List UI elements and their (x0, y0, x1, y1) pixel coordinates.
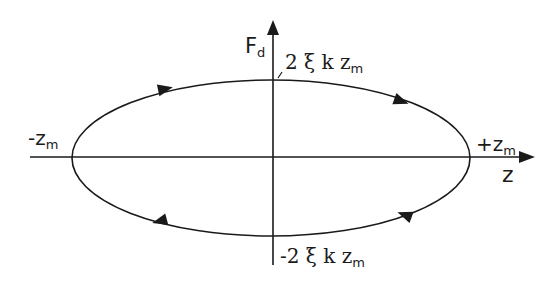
top-amplitude-main: 2 ξ k z (285, 50, 350, 74)
fd-axis-label: Fd (245, 36, 265, 59)
top-label-leader (278, 72, 282, 78)
left-displacement-main: -z (28, 126, 46, 150)
left-displacement-label: -zm (28, 128, 58, 151)
left-displacement-sub: m (46, 137, 59, 152)
right-displacement-main: +z (476, 132, 503, 156)
fd-axis-label-main: F (245, 34, 257, 58)
z-axis-label-text: z (502, 162, 514, 187)
bottom-amplitude-main: -2 ξ k z (280, 244, 352, 268)
fd-axis-label-sub: d (257, 45, 265, 60)
z-axis-arrowhead-icon (519, 151, 535, 163)
right-displacement-sub: m (503, 143, 516, 158)
z-axis-label: z (502, 164, 514, 186)
arrow-top-left-icon (157, 81, 174, 96)
bottom-amplitude-sub: m (352, 255, 365, 270)
arrow-bottom-right-icon (395, 207, 413, 223)
top-amplitude-label: 2 ξ k zm (285, 52, 363, 75)
top-amplitude-sub: m (350, 61, 363, 76)
fd-axis-arrowhead-icon (267, 20, 279, 35)
right-displacement-label: +zm (476, 134, 516, 157)
bottom-amplitude-label: -2 ξ k zm (280, 246, 365, 269)
